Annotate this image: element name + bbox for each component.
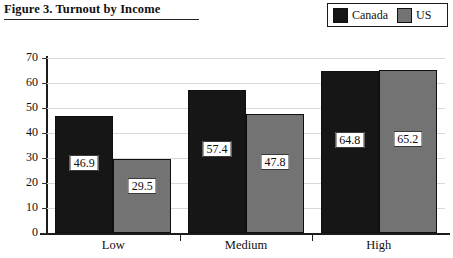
y-tick-label: 60 [12, 75, 38, 90]
y-tick-label: 0 [12, 225, 38, 240]
bar-canada-low: 46.9 [55, 116, 113, 233]
y-tick-label: 70 [12, 50, 38, 65]
plot-area: 46.929.557.447.864.865.2 [47, 58, 445, 233]
y-tick-label: 10 [12, 200, 38, 215]
y-tick-label: 20 [12, 175, 38, 190]
legend-swatch-us-icon [397, 8, 412, 23]
legend-swatch-canada-icon [333, 8, 348, 23]
chart-legend: Canada US [327, 3, 448, 27]
x-category-label-medium: Medium [225, 238, 267, 253]
x-axis-line [40, 233, 450, 235]
x-group-tick [180, 235, 181, 241]
legend-item-canada: Canada [333, 8, 388, 23]
legend-item-us: US [397, 8, 431, 23]
bar-us-low: 29.5 [113, 159, 171, 233]
x-category-label-high: High [366, 238, 391, 253]
x-group-tick [312, 235, 313, 241]
bar-value-label: 57.4 [203, 141, 232, 157]
bar-canada-medium: 57.4 [188, 90, 246, 234]
x-category-label-low: Low [102, 238, 125, 253]
bar-canada-high: 64.8 [321, 71, 379, 233]
bar-value-label: 29.5 [128, 178, 157, 194]
title-underline [4, 19, 199, 20]
bar-us-high: 65.2 [379, 70, 437, 233]
y-tick-label: 30 [12, 150, 38, 165]
bar-value-label: 47.8 [261, 154, 290, 170]
legend-label-us: US [416, 8, 431, 23]
y-tick-mark [42, 233, 47, 234]
figure-title: Figure 3. Turnout by Income [4, 2, 160, 17]
y-tick-label: 50 [12, 100, 38, 115]
bar-series-layer: 46.929.557.447.864.865.2 [47, 58, 445, 233]
legend-label-canada: Canada [352, 8, 388, 23]
bar-value-label: 65.2 [393, 131, 422, 147]
bar-value-label: 64.8 [335, 132, 364, 148]
bar-us-medium: 47.8 [246, 114, 304, 234]
bar-value-label: 46.9 [70, 155, 99, 171]
y-tick-label: 40 [12, 125, 38, 140]
